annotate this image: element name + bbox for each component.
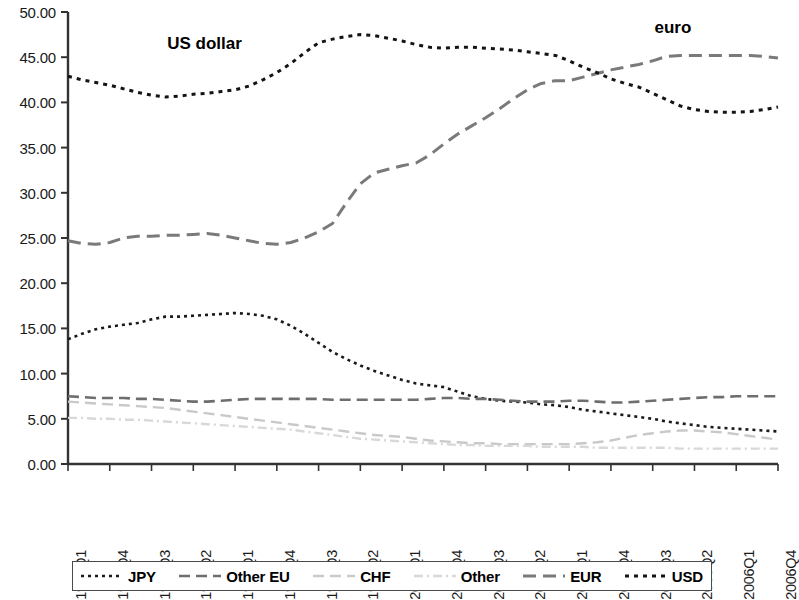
plot-area (0, 0, 786, 480)
x-axis-tick-label: 2006Q4 (784, 550, 799, 600)
y-axis-tick-label: 45.00 (4, 50, 56, 65)
annotation-euro: euro (654, 18, 691, 38)
x-axis-tick-label: 2006Q1 (742, 550, 757, 600)
y-axis-tick-label: 25.00 (4, 231, 56, 246)
legend-label: Other EU (226, 568, 289, 585)
y-axis-labels: 0.005.0010.0015.0020.0025.0030.0035.0040… (0, 0, 56, 480)
y-axis-tick-label: 40.00 (4, 95, 56, 110)
chart-legend: JPYOther EUCHFOtherEURUSD (72, 561, 712, 591)
legend-item-other[interactable]: Other (414, 568, 500, 585)
y-axis-tick-label: 30.00 (4, 186, 56, 201)
legend-swatch-chf-icon (313, 571, 355, 581)
line-chart-canvas (0, 0, 786, 480)
legend-swatch-other-eu-icon (179, 571, 221, 581)
legend-label: CHF (360, 568, 390, 585)
legend-label: JPY (128, 568, 156, 585)
series-line-eur (68, 55, 778, 244)
y-axis-tick-label: 35.00 (4, 141, 56, 156)
legend-item-jpy[interactable]: JPY (81, 568, 156, 585)
legend-item-usd[interactable]: USD (625, 568, 703, 585)
x-axis-labels: 1994Q11994Q41995Q31996Q21997Q11997Q41998… (0, 464, 786, 556)
y-axis-tick-label: 15.00 (4, 321, 56, 336)
y-axis-tick-label: 20.00 (4, 276, 56, 291)
legend-label: USD (672, 568, 703, 585)
legend-swatch-other-icon (414, 571, 456, 581)
legend-label: EUR (570, 568, 601, 585)
y-axis-tick-label: 50.00 (4, 5, 56, 20)
series-line-other-eu (68, 396, 778, 402)
annotation-us-dollar: US dollar (167, 34, 242, 54)
legend-swatch-jpy-icon (81, 571, 123, 581)
legend-swatch-eur-icon (523, 571, 565, 581)
legend-swatch-usd-icon (625, 571, 667, 581)
legend-item-eur[interactable]: EUR (523, 568, 601, 585)
legend-item-chf[interactable]: CHF (313, 568, 390, 585)
legend-item-other-eu[interactable]: Other EU (179, 568, 289, 585)
y-axis-tick-label: 10.00 (4, 367, 56, 382)
series-line-jpy (68, 313, 778, 431)
legend-label: Other (461, 568, 500, 585)
y-axis-tick-label: 5.00 (4, 412, 56, 427)
